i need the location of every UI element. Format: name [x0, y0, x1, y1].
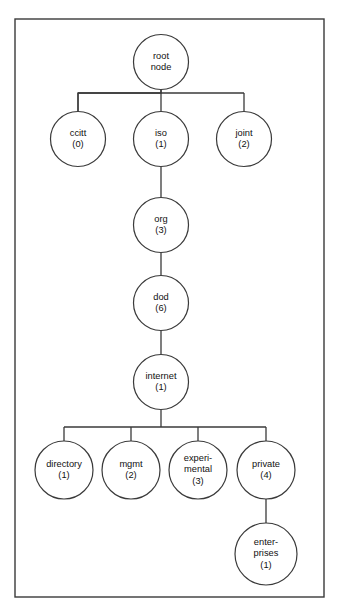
tree-node-private[interactable]: private(4) — [237, 441, 295, 499]
node-label-joint-line1: joint — [234, 128, 252, 138]
tree-node-enterprises[interactable]: enter-prises(1) — [235, 523, 297, 585]
node-label-ccitt-line2: (0) — [72, 139, 83, 149]
tree-node-internet[interactable]: internet(1) — [134, 355, 189, 410]
node-label-dod-line2: (6) — [155, 303, 166, 313]
node-label-iso-line2: (1) — [155, 139, 166, 149]
node-label-directory-line1: directory — [46, 459, 82, 469]
node-label-root-line1: root — [153, 51, 169, 61]
node-label-enterprises-line1: enter- — [254, 537, 278, 547]
tree-node-joint[interactable]: joint(2) — [217, 112, 272, 167]
node-label-org-line1: org — [154, 214, 167, 224]
tree-node-directory[interactable]: directory(1) — [35, 441, 93, 499]
oid-tree-svg: rootnodeccitt(0)iso(1)joint(2)org(3)dod(… — [0, 0, 339, 613]
node-label-iso-line1: iso — [155, 128, 167, 138]
node-label-enterprises-line2: prises — [254, 548, 279, 558]
node-label-mgmt-line1: mgmt — [119, 459, 143, 469]
node-label-experimental-line1: experi- — [184, 453, 212, 463]
oid-tree-figure: rootnodeccitt(0)iso(1)joint(2)org(3)dod(… — [0, 0, 339, 613]
node-layer: rootnodeccitt(0)iso(1)joint(2)org(3)dod(… — [35, 35, 297, 586]
tree-node-org[interactable]: org(3) — [134, 198, 189, 253]
node-label-private-line2: (4) — [260, 470, 271, 480]
node-label-mgmt-line2: (2) — [125, 470, 136, 480]
node-label-private-line1: private — [252, 459, 280, 469]
tree-node-experimental[interactable]: experi-mental(3) — [169, 441, 227, 499]
node-label-experimental-line2: mental — [184, 464, 212, 474]
node-label-joint-line2: (2) — [238, 139, 249, 149]
tree-node-root[interactable]: rootnode — [134, 35, 189, 90]
node-label-ccitt-line1: ccitt — [70, 128, 87, 138]
node-label-internet-line2: (1) — [155, 382, 166, 392]
tree-node-mgmt[interactable]: mgmt(2) — [102, 441, 160, 499]
node-label-enterprises-line3: (1) — [260, 560, 271, 570]
tree-node-ccitt[interactable]: ccitt(0) — [51, 112, 106, 167]
node-label-experimental-line3: (3) — [192, 476, 203, 486]
tree-node-iso[interactable]: iso(1) — [134, 112, 189, 167]
node-label-internet-line1: internet — [145, 371, 176, 381]
node-label-root-line2: node — [151, 62, 172, 72]
node-label-directory-line2: (1) — [58, 470, 69, 480]
node-label-dod-line1: dod — [153, 292, 169, 302]
tree-node-dod[interactable]: dod(6) — [134, 276, 189, 331]
node-label-org-line2: (3) — [155, 225, 166, 235]
